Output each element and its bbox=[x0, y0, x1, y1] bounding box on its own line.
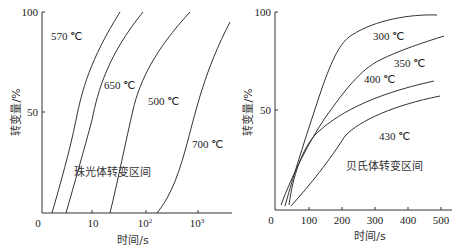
right-chart: 100 50 0 100 200 300 400 500 时间/s 转变量/% … bbox=[241, 6, 452, 243]
label-300: 300 ℃ bbox=[373, 30, 404, 42]
pearlite-region-label: 珠光体转变区间 bbox=[74, 165, 151, 179]
right-y-label-100: 100 bbox=[255, 6, 272, 18]
right-x-label-400: 400 bbox=[400, 214, 417, 226]
label-700: 700 ℃ bbox=[192, 138, 223, 150]
left-x-label-10e3: 103 bbox=[190, 217, 205, 229]
label-650: 650 ℃ bbox=[104, 79, 135, 91]
left-y-label-100: 100 bbox=[22, 6, 39, 18]
left-y-axis-title: 转变量/% bbox=[9, 88, 23, 135]
curve-570 bbox=[52, 12, 120, 213]
curve-300 bbox=[285, 15, 437, 206]
label-430: 430 ℃ bbox=[379, 130, 410, 142]
right-x-label-200: 200 bbox=[334, 214, 351, 226]
right-x-axis-title: 时间/s bbox=[354, 230, 386, 243]
left-x-label-10: 10 bbox=[88, 217, 100, 229]
left-x-label-0: 0 bbox=[35, 217, 41, 229]
curve-700 bbox=[157, 22, 230, 213]
left-x-axis-title: 时间/s bbox=[117, 234, 149, 247]
left-chart: 100 50 0 10 102 103 时间/s 转变量/% 570 ℃ 650… bbox=[9, 6, 232, 247]
label-500: 500 ℃ bbox=[148, 95, 179, 107]
left-y-label-50: 50 bbox=[27, 106, 39, 118]
right-x-label-500: 500 bbox=[433, 214, 450, 226]
right-x-label-100: 100 bbox=[301, 214, 318, 226]
curve-430 bbox=[291, 96, 440, 206]
label-570: 570 ℃ bbox=[51, 30, 82, 42]
label-350: 350 ℃ bbox=[394, 57, 425, 69]
right-y-label-50: 50 bbox=[260, 104, 272, 116]
right-x-label-300: 300 bbox=[367, 214, 384, 226]
chart-canvas: 100 50 0 10 102 103 时间/s 转变量/% 570 ℃ 650… bbox=[0, 0, 462, 247]
label-400: 400 ℃ bbox=[364, 73, 395, 85]
right-y-axis-title: 转变量/% bbox=[241, 88, 255, 135]
curve-400 bbox=[289, 81, 434, 205]
left-x-label-10e2: 102 bbox=[138, 217, 153, 229]
right-x-label-0: 0 bbox=[268, 214, 274, 226]
left-axes bbox=[42, 12, 232, 213]
bainite-region-label: 贝氏体转变区间 bbox=[346, 159, 423, 173]
